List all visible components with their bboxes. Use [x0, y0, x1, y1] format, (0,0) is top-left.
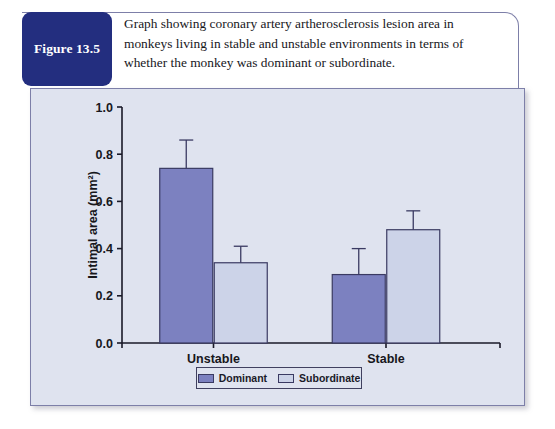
bar-unstable-subordinate[interactable] [214, 263, 267, 343]
y-axis-title: Intimal area (mm²) [86, 171, 100, 279]
legend-label-subordinate: Subordinate [299, 372, 360, 384]
y-axis-tick-label: 0.8 [96, 148, 113, 162]
legend-swatch-subordinate [278, 374, 294, 383]
legend-label-dominant: Dominant [219, 372, 267, 384]
bar-stable-subordinate[interactable] [387, 230, 440, 343]
bar-unstable-dominant[interactable] [160, 168, 213, 343]
chart-legend: Dominant Subordinate [196, 367, 362, 389]
x-axis-category-label: Stable [367, 352, 405, 366]
y-axis-tick-label: 0.2 [96, 289, 113, 303]
bar-stable-dominant[interactable] [332, 275, 385, 343]
y-axis-tick-label: 1.0 [96, 101, 113, 115]
legend-item-subordinate: Subordinate [278, 372, 360, 384]
legend-item-dominant: Dominant [198, 372, 267, 384]
legend-swatch-dominant [198, 374, 214, 383]
bar-chart: 0.00.20.40.60.81.0Intimal area (mm²)Unst… [0, 0, 555, 429]
x-axis-category-label: Unstable [187, 352, 240, 366]
y-axis-tick-label: 0.0 [96, 337, 113, 351]
